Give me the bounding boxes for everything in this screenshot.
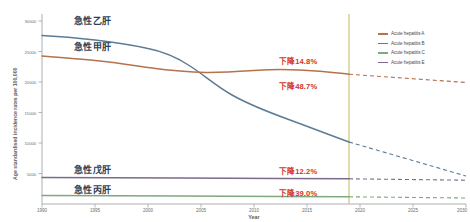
series-line-hepatitis-e xyxy=(42,178,349,179)
legend-label-hepatitis-c: Acute hepatitis C xyxy=(391,50,425,55)
series-projection-hepatitis-e xyxy=(349,179,466,180)
series-projection-hepatitis-c xyxy=(349,197,466,198)
series-projection-hepatitis-b xyxy=(349,142,466,176)
legend-label-hepatitis-a: Acute hepatitis A xyxy=(391,31,424,36)
legend-swatch-hepatitis-c xyxy=(378,52,388,54)
legend-item-hepatitis-e[interactable]: Acute hepatitis E xyxy=(378,58,425,68)
legend-label-hepatitis-e: Acute hepatitis E xyxy=(391,60,425,65)
series-line-hepatitis-c xyxy=(42,196,349,197)
y-axis-ticks xyxy=(39,21,43,174)
legend-label-hepatitis-b: Acute hepatitis B xyxy=(391,41,425,46)
legend-swatch-hepatitis-b xyxy=(378,43,388,45)
series-line-hepatitis-a xyxy=(42,56,349,74)
series-line-hepatitis-b xyxy=(42,36,349,143)
legend-item-hepatitis-c[interactable]: Acute hepatitis C xyxy=(378,48,425,58)
chart-legend: Acute hepatitis A Acute hepatitis B Acut… xyxy=(378,29,425,67)
x-axis-ticks xyxy=(42,204,466,208)
series-projection-hepatitis-a xyxy=(349,74,466,82)
legend-swatch-hepatitis-a xyxy=(378,33,388,35)
chart-figure: Age standardised incidence rates per 100… xyxy=(0,0,470,222)
legend-item-hepatitis-a[interactable]: Acute hepatitis A xyxy=(378,29,425,39)
legend-item-hepatitis-b[interactable]: Acute hepatitis B xyxy=(378,39,425,49)
legend-swatch-hepatitis-e xyxy=(378,62,388,64)
